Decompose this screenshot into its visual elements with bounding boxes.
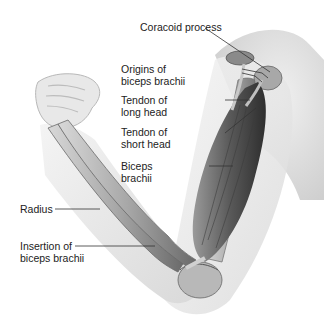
label-biceps-line1: Biceps: [121, 160, 153, 172]
label-origins-line2: biceps brachii: [121, 75, 185, 87]
label-tendon-long-line2: long head: [121, 106, 167, 118]
biceps-anatomy-diagram: Coracoid process Origins of biceps brach…: [0, 0, 324, 319]
label-coracoid-process: Coracoid process: [140, 21, 222, 33]
elbow-joint: [178, 262, 222, 298]
label-radius: Radius: [20, 203, 53, 215]
label-insertion-line2: biceps brachii: [20, 252, 84, 264]
label-biceps-line2: brachii: [121, 172, 152, 184]
label-insertion-line1: Insertion of: [20, 240, 72, 252]
label-tendon-short-line1: Tendon of: [121, 126, 167, 138]
label-tendon-long-line1: Tendon of: [121, 94, 167, 106]
arm-illustration: [0, 0, 324, 319]
label-tendon-short-line2: short head: [121, 138, 171, 150]
label-origins-line1: Origins of: [121, 63, 166, 75]
